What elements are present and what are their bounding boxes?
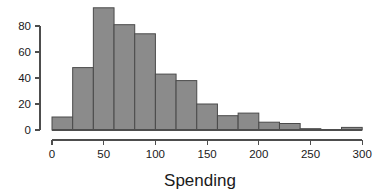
histogram-bar (279, 124, 300, 131)
histogram-bar (197, 104, 218, 130)
x-tick-label: 0 (49, 148, 55, 160)
x-tick-label: 100 (146, 148, 165, 160)
plot-area: 020406080 050100150200250300 Spending (0, 0, 389, 193)
histogram-bar (73, 68, 94, 130)
histogram-bar (176, 81, 197, 130)
x-tick-labels: 050100150200250300 (49, 148, 372, 160)
histogram-bar (52, 117, 73, 130)
x-axis-title: Spending (164, 171, 236, 190)
histogram-bar (217, 116, 238, 130)
histogram-bar (238, 113, 259, 130)
histogram-bar (135, 34, 156, 130)
x-tick-label: 150 (198, 148, 217, 160)
x-tick-label: 200 (249, 148, 268, 160)
x-tick-label: 300 (353, 148, 372, 160)
histogram-bar (93, 8, 114, 130)
y-tick-marks (35, 26, 40, 130)
x-tick-label: 250 (301, 148, 320, 160)
x-tick-marks (52, 140, 362, 145)
y-tick-label: 60 (18, 46, 31, 58)
chart-canvas: 020406080 050100150200250300 Spending (0, 0, 389, 193)
bars-group (52, 8, 362, 130)
histogram-chart: 020406080 050100150200250300 Spending (0, 0, 389, 193)
histogram-bar (114, 25, 135, 130)
histogram-bar (155, 74, 176, 130)
y-tick-label: 20 (18, 98, 31, 110)
y-tick-label: 0 (25, 124, 31, 136)
x-tick-label: 50 (97, 148, 110, 160)
y-tick-label: 80 (18, 20, 31, 32)
y-tick-label: 40 (18, 72, 31, 84)
y-tick-labels: 020406080 (18, 20, 31, 136)
histogram-bar (259, 122, 280, 130)
